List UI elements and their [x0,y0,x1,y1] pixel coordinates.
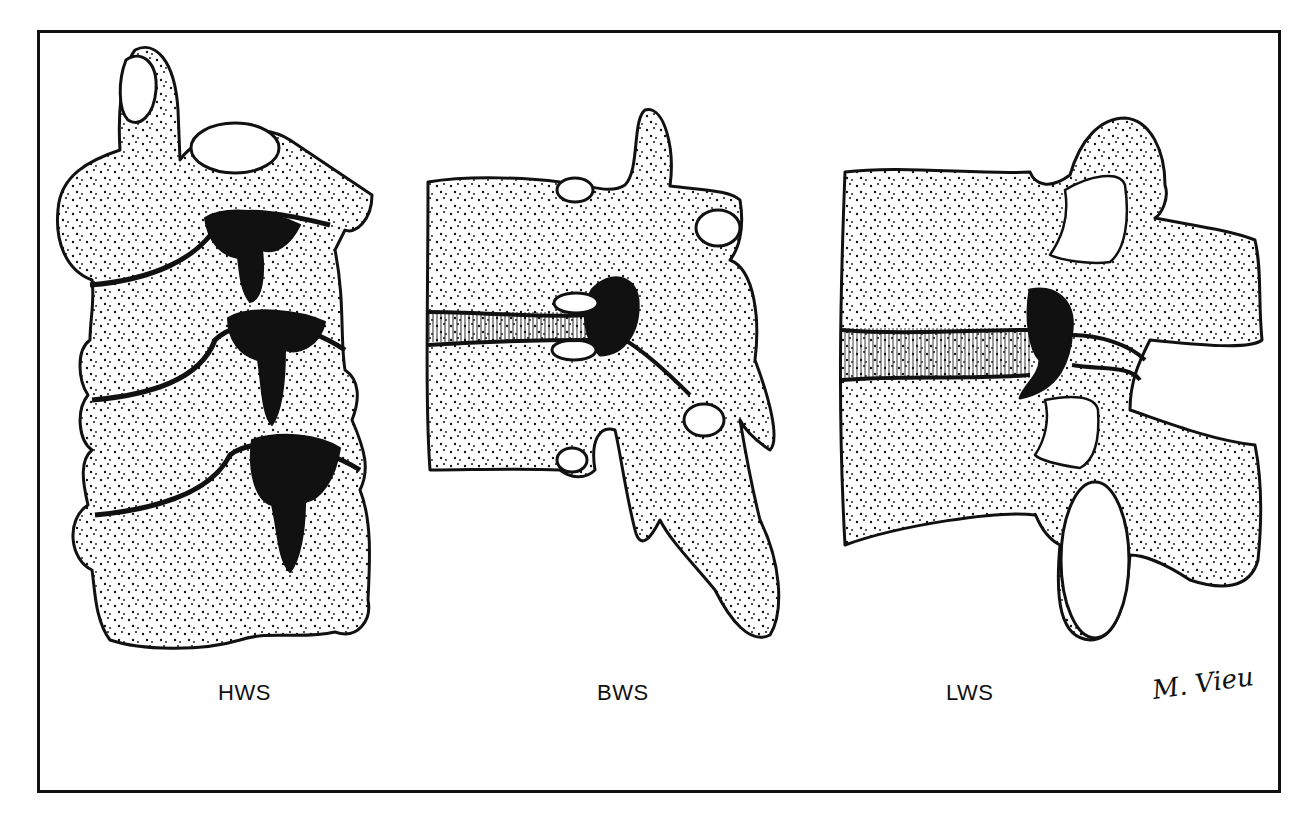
cervical-spine-drawing [57,48,372,649]
label-lws: LWS [946,680,994,706]
label-hws: HWS [218,680,271,706]
lumbar-spine-drawing [840,118,1262,640]
vertebrae-illustration [0,0,1306,817]
thoracic-spine-drawing [427,110,779,638]
label-bws: BWS [597,680,649,706]
